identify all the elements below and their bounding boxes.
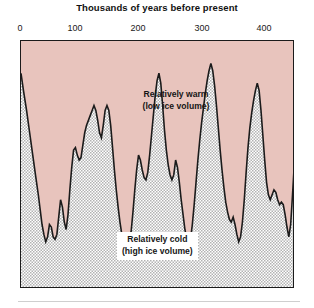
warm-annotation-line2: (low ice volume) [122, 101, 230, 113]
cold-annotation-line1: Relatively cold [122, 234, 193, 246]
footer-divider [18, 301, 300, 302]
x-tick-label-100: 100 [67, 23, 82, 33]
chart-title: Thousands of years before present [0, 2, 314, 13]
x-tick-label-400: 400 [256, 23, 271, 33]
cold-annotation-line2: (high ice volume) [122, 246, 193, 258]
x-tick-label-200: 200 [130, 23, 145, 33]
figure-root: Thousands of years before present 010020… [0, 0, 314, 308]
x-tick-label-300: 300 [194, 23, 209, 33]
x-tick-label-0: 0 [17, 23, 22, 33]
warm-annotation: Relatively warm (low ice volume) [122, 89, 230, 112]
cold-annotation: Relatively cold (high ice volume) [117, 232, 198, 260]
warm-annotation-line1: Relatively warm [122, 89, 230, 101]
